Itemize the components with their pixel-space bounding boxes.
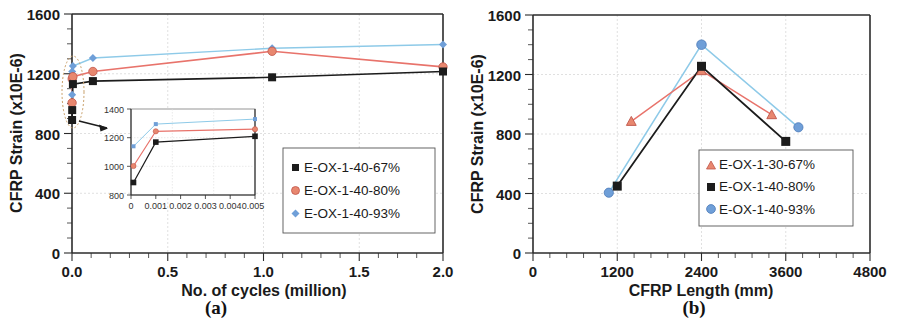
chart-b-y-axis-title: CFRP Strain (x10E-6) xyxy=(469,54,486,214)
inset-x-tick-label: 0.002 xyxy=(169,201,192,211)
chart-a-legend: E-OX-1-40-67% E-OX-1-40-80% E-OX-1-40-93… xyxy=(283,148,435,233)
inset-x-tick-label: 0.005 xyxy=(242,201,265,211)
chart-b-svg: 1600 1200 800 400 0 0 1200 2400 3600 480… xyxy=(459,0,918,319)
legend-label: E-OX-1-40-93% xyxy=(719,202,815,217)
inset-x-ticks xyxy=(131,195,255,199)
y-tick-label: 0 xyxy=(52,245,60,262)
chart-a-x-ticks xyxy=(72,253,443,261)
panel-b-caption: (b) xyxy=(682,297,705,319)
y-tick-label: 1200 xyxy=(27,66,60,83)
legend-label: E-OX-1-40-67% xyxy=(304,160,400,175)
inset-y-tick-label: 1400 xyxy=(104,105,124,115)
y-tick-label: 1600 xyxy=(488,7,521,24)
legend-label: E-OX-1-30-67% xyxy=(719,157,815,172)
inset-x-tick-label: 0.004 xyxy=(219,201,242,211)
chart-a-y-axis-title: CFRP Strain (x10E-6) xyxy=(8,53,25,213)
inset-pointer-arrow xyxy=(79,121,108,132)
chart-b-x-ticks xyxy=(533,253,870,261)
chart-b-x-tick-labels: 0 1200 2400 3600 4800 xyxy=(529,263,887,280)
legend-label: E-OX-1-40-80% xyxy=(304,183,400,198)
legend-marker-square-icon xyxy=(292,164,299,171)
x-tick-label: 1.0 xyxy=(253,263,274,280)
figure-container: 1600 1200 800 400 0 0.0 0.5 1.0 1.5 2.0 … xyxy=(0,0,918,319)
y-tick-label: 800 xyxy=(35,126,60,143)
inset-x-tick-label: 0 xyxy=(128,201,133,211)
x-tick-label: 1200 xyxy=(601,263,634,280)
x-tick-label: 0.5 xyxy=(157,263,178,280)
chart-a-inset: 1400 1200 1000 800 0 0.001 0.002 0.003 0… xyxy=(104,105,264,212)
y-tick-label: 1600 xyxy=(27,6,60,23)
legend-marker-circle-icon xyxy=(292,187,300,195)
legend-label: E-OX-1-40-80% xyxy=(719,179,815,194)
y-tick-label: 800 xyxy=(496,126,521,143)
chart-a-svg: 1600 1200 800 400 0 0.0 0.5 1.0 1.5 2.0 … xyxy=(0,0,459,319)
y-tick-label: 0 xyxy=(513,245,521,262)
panel-a-caption: (a) xyxy=(205,297,227,319)
legend-label: E-OX-1-40-93% xyxy=(304,206,400,221)
legend-item-2[interactable]: E-OX-1-40-80% xyxy=(707,179,815,194)
chart-a-y-ticks xyxy=(64,14,72,253)
chart-a-x-tick-labels: 0.0 0.5 1.0 1.5 2.0 xyxy=(62,263,454,280)
legend-item-3[interactable]: E-OX-1-40-93% xyxy=(292,206,401,221)
x-tick-label: 1.5 xyxy=(349,263,370,280)
inset-x-tick-labels: 0 0.001 0.002 0.003 0.004 0.005 xyxy=(128,201,264,211)
legend-marker-square-icon xyxy=(707,183,715,191)
inset-x-tick-label: 0.003 xyxy=(194,201,217,211)
y-tick-label: 1200 xyxy=(488,67,521,84)
legend-item-3[interactable]: E-OX-1-40-93% xyxy=(707,202,815,217)
chart-a-y-tick-labels: 1600 1200 800 400 0 xyxy=(27,6,60,262)
x-tick-label: 4800 xyxy=(853,263,886,280)
x-tick-label: 0.0 xyxy=(62,263,83,280)
x-tick-label: 3600 xyxy=(769,263,802,280)
chart-panel-b: 1600 1200 800 400 0 0 1200 2400 3600 480… xyxy=(459,0,918,319)
chart-b-legend: E-OX-1-30-67% E-OX-1-40-80% E-OX-1-40-93… xyxy=(699,150,853,226)
y-tick-label: 400 xyxy=(35,185,60,202)
x-tick-label: 0 xyxy=(529,263,537,280)
legend-marker-circle-icon xyxy=(707,205,716,214)
x-tick-label: 2.0 xyxy=(433,263,454,280)
chart-b-plot: 1600 1200 800 400 0 0 1200 2400 3600 480… xyxy=(469,7,887,319)
chart-b-y-tick-labels: 1600 1200 800 400 0 xyxy=(488,7,521,262)
inset-x-tick-label: 0.001 xyxy=(145,201,168,211)
inset-y-tick-label: 800 xyxy=(109,191,124,201)
chart-panel-a: 1600 1200 800 400 0 0.0 0.5 1.0 1.5 2.0 … xyxy=(0,0,459,319)
inset-y-ticks xyxy=(127,109,131,195)
legend-item-2[interactable]: E-OX-1-40-80% xyxy=(292,183,401,198)
inset-y-tick-labels: 1400 1200 1000 800 xyxy=(104,105,124,201)
chart-a-plot: 1600 1200 800 400 0 0.0 0.5 1.0 1.5 2.0 … xyxy=(8,6,453,319)
y-tick-label: 400 xyxy=(496,186,521,203)
legend-item-1[interactable]: E-OX-1-40-67% xyxy=(292,160,400,175)
inset-y-tick-label: 1200 xyxy=(104,133,124,143)
x-tick-label: 2400 xyxy=(685,263,718,280)
chart-b-y-ticks xyxy=(525,15,533,253)
inset-y-tick-label: 1000 xyxy=(104,162,124,172)
legend-item-1[interactable]: E-OX-1-30-67% xyxy=(707,157,816,172)
